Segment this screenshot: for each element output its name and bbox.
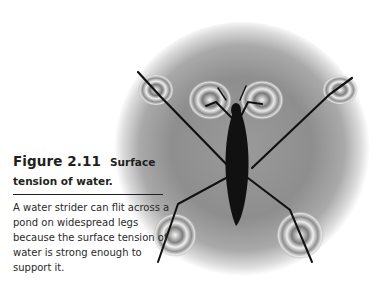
caption-divider	[13, 194, 163, 195]
figure-title-line1: Surface	[110, 156, 155, 168]
figure-title-line2: tension of water.	[13, 175, 113, 187]
figure-caption-text: A water strider can flit across a pond o…	[13, 200, 175, 275]
figure-caption: Figure 2.11Surface tension of water. A w…	[13, 152, 173, 275]
figure-title: Figure 2.11Surface tension of water.	[13, 152, 173, 190]
figure-number: Figure 2.11	[13, 153, 101, 169]
